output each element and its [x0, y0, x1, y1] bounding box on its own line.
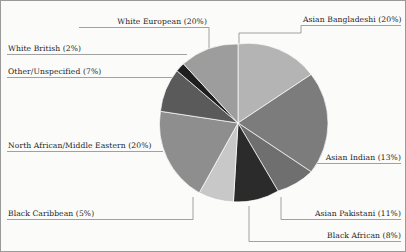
label-white-british: White British (2%) — [8, 44, 81, 54]
label-black-caribbean: Black Caribbean (5%) — [8, 209, 94, 219]
label-white-european: White European (20%) — [79, 17, 207, 27]
label-asian-indian: Asian Indian (13%) — [317, 153, 401, 163]
label-asian-bangladeshi: Asian Bangladeshi (20%) — [303, 15, 402, 25]
label-other-unspecified: Other/Unspecified (7%) — [8, 67, 101, 77]
label-black-african: Black African (8%) — [251, 231, 401, 241]
label-north-african-middle-eastern: North African/Middle Eastern (20%) — [8, 141, 152, 151]
label-asian-pakistani: Asian Pakistani (11%) — [283, 209, 401, 219]
pie-chart-figure: Asian Bangladeshi (20%) White European (… — [0, 0, 406, 252]
leader-line-asian-bangladeshi-stem — [239, 26, 301, 46]
pie-slices — [159, 43, 328, 202]
